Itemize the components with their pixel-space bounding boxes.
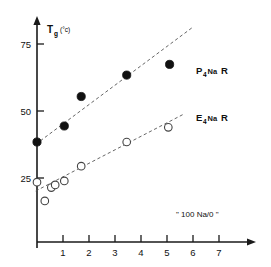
chart-container: 75 50 25 1 2 3 4 5 6 7 T g (°c) " 100 Na… — [0, 0, 271, 267]
x-tick-label-2: 2 — [86, 247, 91, 258]
x-tick-label-4: 4 — [138, 247, 143, 258]
series-label-p4nar-end: R — [221, 65, 228, 76]
series-label-e4nar: E 4 Na R — [196, 112, 228, 125]
data-point — [166, 60, 174, 68]
x-axis-arrowhead — [247, 238, 256, 245]
series-label-e4nar-mid: Na — [208, 114, 218, 123]
trendline-e4nar — [36, 115, 183, 191]
data-point — [165, 124, 173, 132]
series-label-p4nar-subscript: 4 — [203, 71, 207, 78]
x-tick-marks — [63, 235, 219, 242]
series-label-p4nar-main: P — [196, 65, 203, 76]
y-axis-title-main: T — [47, 24, 53, 35]
series-label-p4nar-mid: Na — [208, 67, 218, 76]
data-point — [51, 181, 59, 189]
series-label-e4nar-subscript: 4 — [203, 118, 207, 125]
series-label-p4nar: P 4 Na R — [196, 65, 228, 78]
data-point — [33, 178, 41, 186]
y-axis-title-unit: (°c) — [60, 26, 70, 34]
data-point — [77, 92, 85, 100]
y-tick-label-50: 50 — [20, 106, 31, 117]
y-tick-label-25: 25 — [20, 173, 31, 184]
x-tick-label-7: 7 — [216, 247, 221, 258]
x-axis-title: " 100 Na/0 " — [176, 210, 219, 219]
x-tick-label-6: 6 — [190, 247, 195, 258]
y-tick-marks — [37, 44, 44, 178]
y-axis-title: T g (°c) — [47, 24, 70, 38]
series-e4nar-points — [33, 124, 172, 205]
data-point — [61, 177, 69, 185]
series-p4nar-points — [33, 60, 174, 146]
data-point — [33, 138, 41, 146]
y-tick-label-75: 75 — [20, 39, 31, 50]
scatter-plot: 75 50 25 1 2 3 4 5 6 7 T g (°c) " 100 Na… — [0, 0, 271, 267]
series-label-e4nar-end: R — [221, 112, 228, 123]
data-point — [123, 138, 131, 146]
series-label-e4nar-main: E — [196, 112, 202, 123]
y-axis-title-subscript: g — [54, 30, 58, 38]
x-tick-label-1: 1 — [60, 247, 65, 258]
data-point — [60, 122, 68, 130]
x-tick-label-3: 3 — [112, 247, 117, 258]
data-point — [77, 162, 85, 170]
data-point — [123, 71, 131, 79]
y-axis-arrowhead — [33, 16, 40, 25]
x-tick-label-5: 5 — [164, 247, 169, 258]
data-point — [41, 197, 49, 205]
